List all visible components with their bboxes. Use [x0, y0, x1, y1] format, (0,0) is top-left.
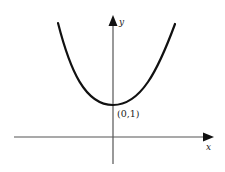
- parabola-curve: [58, 23, 175, 105]
- graph-canvas: y x (0,1): [0, 0, 225, 172]
- x-axis-arrow-icon: [203, 133, 214, 142]
- x-axis-label: x: [206, 142, 211, 152]
- y-axis-arrow-icon: [109, 15, 118, 26]
- y-axis-label: y: [118, 17, 125, 27]
- vertex-label: (0,1): [117, 108, 140, 119]
